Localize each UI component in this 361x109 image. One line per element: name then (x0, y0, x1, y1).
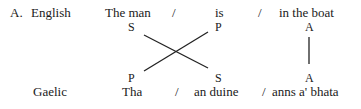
gaelic-segment-subject: an duine (194, 85, 238, 98)
gaelic-language-label: Gaelic (33, 85, 67, 98)
line-p-to-p (144, 32, 208, 71)
gaelic-function-p: P (128, 72, 135, 84)
gaelic-segment-adjunct: anns a' bhata (272, 85, 339, 98)
gaelic-separator-1: / (175, 85, 179, 98)
gaelic-separator-2: / (262, 85, 266, 98)
gaelic-function-s: S (215, 72, 222, 84)
gaelic-function-a: A (305, 72, 314, 84)
gaelic-segment-predicator: Tha (122, 85, 142, 98)
